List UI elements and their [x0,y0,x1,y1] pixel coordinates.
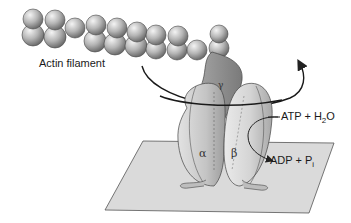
atp-tail: O [326,110,335,122]
actin-filament-label: Actin filament [39,57,105,69]
adp-subscript: i [312,160,314,169]
alpha-label: α [199,147,206,160]
beta-label: β [231,147,237,160]
actin-filament [22,9,229,60]
adp-text: ADP + P [270,154,312,166]
gamma-label: γ [218,80,223,90]
atp-h2o-label: ATP + H2O [281,110,335,125]
atp-text: ATP + H [281,110,322,122]
adp-pi-label: ADP + Pi [270,154,314,169]
